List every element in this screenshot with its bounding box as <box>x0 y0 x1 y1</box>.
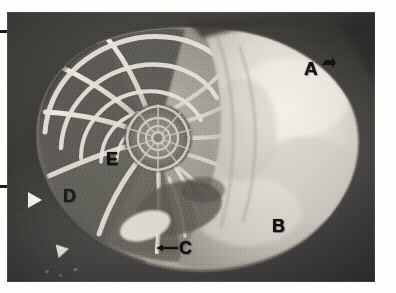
white-arrowhead-upper <box>28 192 42 208</box>
figure-page: A B C D E <box>0 0 396 293</box>
scan-speckle <box>73 268 78 271</box>
label-c: C <box>179 239 192 257</box>
label-e: E <box>106 150 118 168</box>
spiral-core <box>124 104 192 172</box>
figure-caption <box>7 284 375 292</box>
scan-speckle <box>45 270 49 273</box>
scan-speckle <box>307 68 310 74</box>
label-d: D <box>63 187 76 205</box>
label-a: A <box>304 59 318 78</box>
label-c-arrow-left-icon <box>156 244 178 252</box>
label-a-arrow-icon <box>321 56 337 69</box>
scan-speckle <box>59 274 62 277</box>
nautilus-photograph: A B C D E <box>7 12 375 282</box>
label-b: B <box>272 217 285 235</box>
white-arrowhead-lower <box>56 242 71 258</box>
